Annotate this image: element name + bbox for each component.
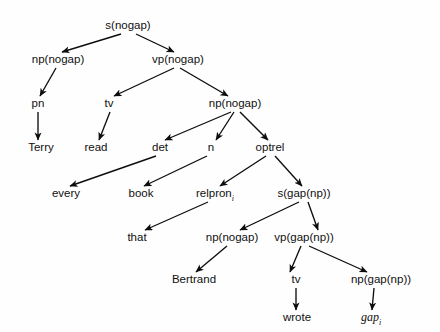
- tree-node-np_obj: np(nogap): [209, 97, 262, 109]
- tree-node-s_gap: s(gap(np)): [277, 187, 330, 199]
- tree-edge-vp_main-to-np_obj: [180, 68, 228, 96]
- tree-node-pn: pn: [32, 97, 45, 109]
- tree-node-label: read: [84, 141, 107, 153]
- tree-node-np_gap: np(gap(np)): [351, 273, 411, 285]
- tree-edge-np_subj-to-pn: [40, 68, 56, 96]
- tree-node-that: that: [127, 231, 147, 243]
- tree-node-label: np(nogap): [209, 97, 262, 109]
- tree-node-label: tv: [105, 97, 114, 109]
- parse-tree-figure: s(nogap)np(nogap)vp(nogap)pntvnp(nogap)T…: [0, 0, 440, 332]
- tree-edge-s_root-to-np_subj: [62, 34, 121, 52]
- tree-edge-np_obj-to-optrel: [240, 112, 268, 140]
- tree-node-relpron: relproni: [196, 187, 234, 203]
- tree-node-vp_gap: vp(gap(np)): [274, 231, 334, 243]
- tree-node-n: n: [208, 141, 214, 153]
- tree-node-label: np(nogap): [32, 53, 85, 65]
- tree-node-book: book: [129, 187, 154, 199]
- tree-node-label: optrel: [256, 141, 285, 153]
- tree-node-label: pn: [32, 97, 45, 109]
- tree-node-label: vp(gap(np)): [274, 231, 334, 243]
- tree-node-vp_main: vp(nogap): [152, 53, 204, 65]
- tree-node-s_root: s(nogap): [105, 19, 151, 31]
- tree-node-label: s(gap(np)): [277, 187, 330, 199]
- tree-edge-n-to-book: [144, 156, 207, 186]
- tree-node-gap: gapi: [361, 310, 381, 327]
- tree-edge-relpron-to-that: [145, 202, 208, 230]
- tree-node-terry: Terry: [28, 141, 54, 153]
- tree-node-label: n: [208, 141, 214, 153]
- tree-edge-np_rel_subj-to-bertrand: [196, 246, 227, 272]
- tree-node-label: np(gap(np)): [351, 273, 411, 285]
- tree-edge-optrel-to-relpron: [220, 156, 266, 186]
- tree-edge-s_gap-to-np_rel_subj: [240, 202, 299, 230]
- tree-node-label: tv: [292, 273, 301, 285]
- tree-node-np_rel_subj: np(nogap): [206, 231, 259, 243]
- tree-node-wrote: wrote: [282, 311, 311, 323]
- tree-edge-optrel-to-s_gap: [275, 156, 302, 186]
- tree-node-label: np(nogap): [206, 231, 259, 243]
- tree-edge-layer: [38, 34, 374, 310]
- parse-tree-canvas: s(nogap)np(nogap)vp(nogap)pntvnp(nogap)T…: [0, 0, 440, 332]
- tree-node-layer: s(nogap)np(nogap)vp(nogap)pntvnp(nogap)T…: [28, 19, 411, 327]
- tree-node-label: s(nogap): [105, 19, 151, 31]
- tree-node-subscript: i: [379, 318, 381, 327]
- tree-edge-np_obj-to-n: [216, 112, 234, 140]
- tree-node-bertrand: Bertrand: [172, 273, 216, 285]
- tree-edge-vp_gap-to-np_gap: [309, 246, 367, 272]
- tree-edge-np_obj-to-det: [165, 112, 231, 140]
- tree-node-det: det: [152, 141, 169, 153]
- tree-edge-tv_read-to-read: [99, 112, 110, 140]
- tree-node-label: det: [152, 141, 169, 153]
- tree-edge-s_gap-to-vp_gap: [308, 202, 318, 230]
- tree-node-np_subj: np(nogap): [32, 53, 85, 65]
- tree-node-tv_read: tv: [105, 97, 114, 109]
- tree-edge-vp_main-to-tv_read: [114, 68, 174, 96]
- tree-node-label: vp(nogap): [152, 53, 204, 65]
- tree-node-subscript: i: [232, 194, 234, 203]
- tree-edge-np_gap-to-gap: [372, 288, 374, 310]
- tree-node-label: wrote: [282, 311, 311, 323]
- tree-node-tv_wrote: tv: [292, 273, 301, 285]
- tree-edge-vp_gap-to-tv_wrote: [290, 246, 301, 272]
- tree-node-label: that: [127, 231, 147, 243]
- tree-node-label: book: [129, 187, 154, 199]
- tree-edge-s_root-to-vp_main: [136, 34, 174, 52]
- tree-node-label: Terry: [28, 141, 54, 153]
- tree-edge-det-to-every: [70, 156, 156, 186]
- tree-node-every: every: [52, 187, 80, 199]
- tree-node-label: Bertrand: [172, 273, 216, 285]
- tree-node-label: every: [52, 187, 80, 199]
- tree-node-label: gap: [361, 310, 379, 324]
- tree-node-optrel: optrel: [256, 141, 285, 153]
- tree-node-read: read: [84, 141, 107, 153]
- tree-node-label: relpron: [196, 187, 232, 199]
